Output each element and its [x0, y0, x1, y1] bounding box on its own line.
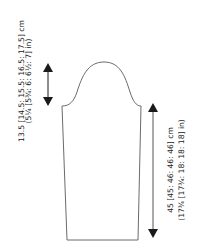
cap-height-in-label: (5¼ [5¾: 6: 6½: 7] in) [24, 11, 34, 151]
sleeve-length-in-label: (17¾ [17¾: 18: 18: 18] in) [177, 100, 187, 240]
arrow-down-icon [43, 97, 53, 106]
cap-height-arrow [43, 63, 53, 106]
arrow-up-icon [148, 103, 158, 112]
sleeve-length-arrow [148, 103, 158, 238]
sleeve-outline [62, 62, 141, 240]
sleeve-length-cm-label: 45 [45: 46: 46: 46] cm [166, 100, 176, 240]
arrow-up-icon [43, 63, 53, 72]
arrow-down-icon [148, 229, 158, 238]
